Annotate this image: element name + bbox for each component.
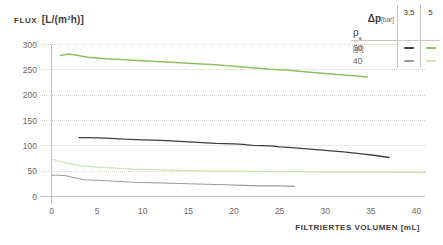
legend-swatch-30-3-5 bbox=[397, 41, 420, 54]
legend-dp-header: Δp[bar] bbox=[351, 8, 397, 26]
flux-chart: FLUX [L/(m²h)] 0501001502002503000510152… bbox=[0, 0, 443, 245]
legend-swatch-40-5 bbox=[420, 54, 440, 67]
series-line bbox=[79, 138, 389, 158]
delta-p-symbol: Δp bbox=[368, 13, 381, 24]
line-swatch bbox=[426, 47, 436, 49]
series-line bbox=[52, 159, 426, 173]
line-swatch bbox=[404, 47, 414, 49]
legend-swatch-30-5 bbox=[420, 41, 440, 54]
legend-column-3-5: 3,5 bbox=[397, 5, 420, 41]
delta-p-unit: [bar] bbox=[381, 16, 394, 23]
line-swatch bbox=[404, 60, 414, 62]
legend-header-left: Δp[bar] ρs [g/l] bbox=[351, 5, 397, 41]
series-line bbox=[61, 54, 368, 77]
legend-swatch-40-3-5 bbox=[397, 54, 420, 67]
line-swatch bbox=[426, 60, 436, 62]
legend-column-5: 5 bbox=[420, 5, 440, 41]
legend-row-40-label: 40 bbox=[351, 54, 397, 67]
legend-row-30-label: 30 bbox=[351, 41, 397, 54]
legend: Δp[bar] ρs [g/l] 3,5 5 30 40 bbox=[351, 5, 440, 67]
series-line bbox=[52, 175, 295, 186]
x-axis-title: FILTRIERTES VOLUMEN [mL] bbox=[295, 223, 420, 232]
